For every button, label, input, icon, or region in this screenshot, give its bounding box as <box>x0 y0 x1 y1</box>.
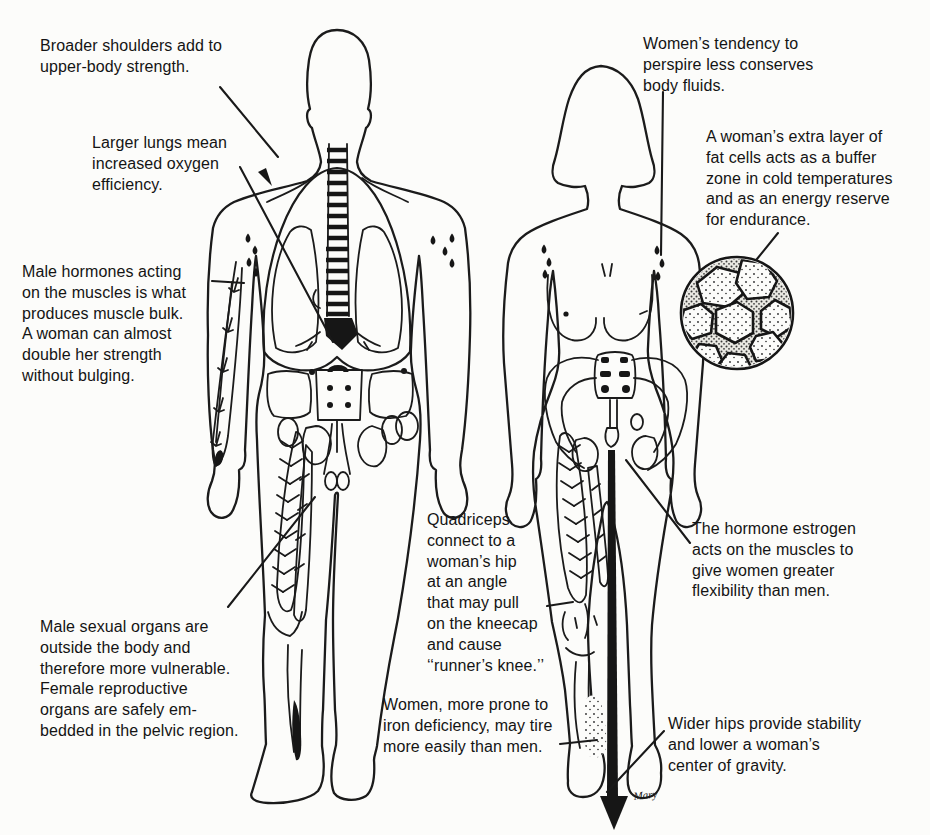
annotation-male-sexual-organs: Male sexual organs are outside the body … <box>40 617 239 742</box>
annotation-estrogen: The hormone estrogen acts on the muscles… <box>692 519 856 602</box>
diagram-page: Mary Broader shoulders add to upper-bod <box>0 0 930 835</box>
annotation-wider-hips: Wider hips provide stability and lower a… <box>668 714 861 776</box>
annotation-iron-deficiency: Women, more prone to iron deficiency, ma… <box>383 695 552 757</box>
female-body-outline <box>503 66 704 798</box>
leader-fat-cells <box>757 233 778 259</box>
annotation-quadriceps: Quadriceps connect to a woman’s hip at a… <box>427 510 544 676</box>
artist-signature: Mary <box>632 788 658 803</box>
male-body-outline <box>208 30 471 803</box>
leader-broader-shoulders <box>220 87 278 157</box>
annotation-broader-shoulders: Broader shoulders add to upper-body stre… <box>40 36 222 78</box>
male-figure <box>208 30 471 803</box>
annotation-larger-lungs: Larger lungs mean increased oxygen effic… <box>92 133 227 195</box>
annotation-fat-cells: A woman’s extra layer of fat cells acts … <box>706 127 893 231</box>
annotation-male-hormones: Male hormones acting on the muscles is w… <box>22 262 186 387</box>
annotation-perspire: Women’s tendency to perspire less conser… <box>643 34 813 96</box>
leader-larger-lungs-arrowhead <box>258 168 272 186</box>
iron-deficiency-stipple <box>584 696 607 758</box>
